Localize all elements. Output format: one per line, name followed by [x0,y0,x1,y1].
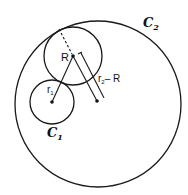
label-c1: C1 [47,125,63,142]
center-dot-c1 [50,100,54,104]
label-r1: r1 [47,84,54,96]
label-c2: C2 [143,15,159,32]
label-r2-minus-r: r2– R [98,73,120,85]
r2-minus-r-segment [73,56,97,101]
center-dot-c2 [95,99,99,103]
circle-c2 [15,21,181,187]
center-dot-r [71,54,75,58]
label-r: R [61,51,69,63]
tangent-circles-diagram: C2 R r1 r2– R C1 [0,0,188,195]
